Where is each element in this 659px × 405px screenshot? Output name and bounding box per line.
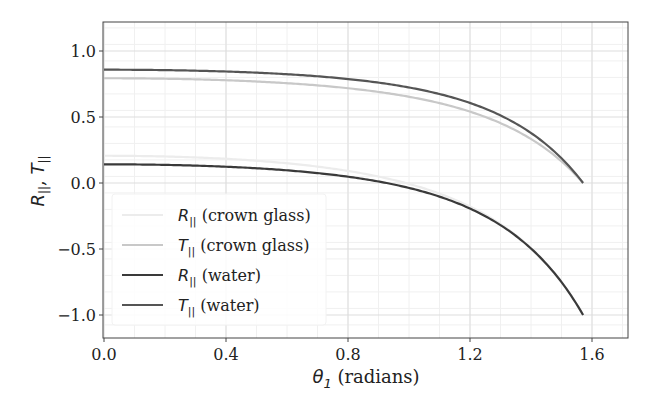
y-tick-label: −0.5 <box>57 240 96 259</box>
y-axis-label-r: R <box>27 194 48 207</box>
x-tick-label: 0.4 <box>213 345 238 364</box>
y-tick-label: 0.0 <box>71 174 96 193</box>
x-axis-label: θ1 (radians) <box>312 366 419 391</box>
x-tick-label: 0.0 <box>91 345 116 364</box>
x-tick-label: 1.2 <box>457 345 482 364</box>
y-axis-label-sub-t: || <box>37 155 51 163</box>
y-axis-label-sub-r: || <box>37 186 51 194</box>
legend-label: T|| (crown glass) <box>178 236 309 258</box>
legend-label: R|| (crown glass) <box>178 206 311 228</box>
x-axis-label-sub: 1 <box>323 376 331 391</box>
x-axis-label-rest: (radians) <box>332 366 420 387</box>
fresnel-chart: 0.00.40.81.21.6 −1.0−0.50.00.51.0 θ1 (ra… <box>0 0 659 405</box>
x-tick-label: 0.8 <box>335 345 360 364</box>
x-axis-label-symbol: θ <box>312 366 323 387</box>
y-tick-label: 1.0 <box>71 42 96 61</box>
x-tick-label: 1.6 <box>579 345 604 364</box>
legend: R|| (crown glass)T|| (crown glass)R|| (w… <box>112 194 326 325</box>
y-tick-label: −1.0 <box>57 306 96 325</box>
x-tick-labels: 0.00.40.81.21.6 <box>91 345 604 364</box>
y-axis-label: R||, T|| <box>27 155 51 206</box>
y-axis-label-sep: , <box>27 175 48 186</box>
y-tick-labels: −1.0−0.50.00.51.0 <box>57 42 96 325</box>
y-tick-label: 0.5 <box>71 108 96 127</box>
